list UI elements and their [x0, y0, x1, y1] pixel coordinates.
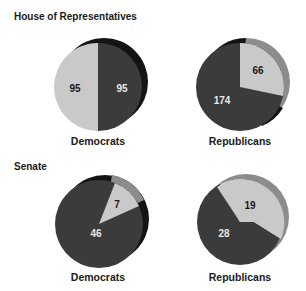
value-dark: 95: [116, 83, 128, 94]
label-senate-democrats: Democrats: [71, 271, 125, 283]
label-house-republicans: Republicans: [209, 135, 271, 147]
pie-senate-democrats: 7 46: [55, 175, 149, 268]
value-dark: 174: [214, 95, 231, 106]
pie-house-democrats: 95 95: [54, 38, 148, 131]
label-house-democrats: Democrats: [71, 135, 125, 147]
value-dark: 28: [218, 228, 230, 239]
pie-senate-republicans: 19 28: [197, 174, 289, 265]
value-light: 7: [114, 199, 120, 210]
value-light: 19: [244, 200, 256, 211]
value-light: 66: [252, 65, 264, 76]
value-dark: 46: [90, 228, 102, 239]
label-senate-republicans: Republicans: [209, 271, 271, 283]
value-light: 95: [69, 83, 81, 94]
pie-house-republicans: 66 174: [196, 38, 290, 131]
